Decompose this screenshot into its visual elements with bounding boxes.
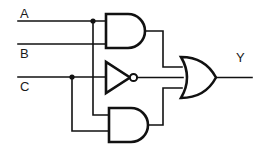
not-gate-triangle	[106, 62, 130, 93]
not-gate-bubble-icon	[130, 74, 137, 81]
circuit-schematic-svg	[0, 0, 266, 153]
wire-and-top-output	[145, 31, 182, 67]
input-label-c: C	[20, 80, 29, 93]
wire-and-bottom-output	[148, 88, 182, 125]
logic-circuit-diagram: A B C Y	[0, 0, 266, 153]
input-label-b: B	[20, 47, 29, 60]
input-label-a: A	[20, 7, 29, 20]
or-gate-body	[181, 57, 216, 98]
and-gate-top-body	[106, 14, 145, 48]
wire-branch-c-to-and-bottom	[72, 77, 108, 131]
output-label-y: Y	[236, 51, 245, 64]
junction-dot-a	[90, 18, 95, 23]
and-gate-bottom-body	[109, 108, 148, 142]
junction-dot-c	[69, 74, 74, 79]
